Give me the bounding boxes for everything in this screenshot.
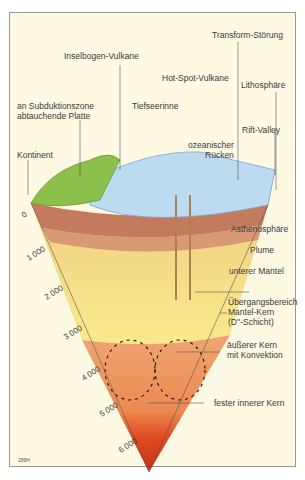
label-uebergang-line3: (D''-Schicht) (228, 317, 297, 327)
label-subduktion: an Subduktionszone abtauchende Platte (17, 101, 94, 121)
label-hot-spot-vulkane: Hot-Spot-Vulkane (162, 73, 229, 83)
label-plume: Plume (250, 245, 274, 255)
label-inselbogen-vulkane: Inselbogen-Vulkane (64, 51, 139, 61)
label-transform-stoerung: Transform-Störung (212, 30, 283, 40)
label-uebergangsbereich: Übergangsbereich Mantel-Kern (D''-Schich… (228, 297, 297, 327)
label-rift-valley: Rift-Valley (242, 125, 280, 135)
label-aeusserer-line2: mit Konvektion (227, 350, 283, 360)
label-ozeanischer-ruecken: ozeanischer Rücken (188, 140, 234, 160)
label-lithosphaere: Lithosphäre (241, 80, 285, 90)
earth-cross-section (0, 0, 305, 480)
label-unterer-mantel: unterer Mantel (229, 266, 284, 276)
label-subduktion-line1: an Subduktionszone (17, 101, 94, 111)
label-aeusserer-line1: äußerer Kern (227, 340, 283, 350)
label-subduktion-line2: abtauchende Platte (17, 111, 94, 121)
label-aeusserer-kern: äußerer Kern mit Konvektion (227, 340, 283, 360)
label-asthenosphaere: Asthenosphäre (231, 224, 288, 234)
label-uebergang-line1: Übergangsbereich (228, 297, 297, 307)
label-innerer-kern: fester innerer Kern (214, 398, 284, 408)
core-layer (82, 335, 230, 472)
label-uebergang-line2: Mantel-Kern (228, 307, 297, 317)
label-ruecken-line2: Rücken (188, 150, 234, 160)
figure-code: 289H (18, 457, 30, 463)
label-ruecken-line1: ozeanischer (188, 140, 234, 150)
label-tiefseerinne: Tiefseerinne (132, 101, 178, 111)
label-kontinent: Kontinent (17, 150, 53, 160)
